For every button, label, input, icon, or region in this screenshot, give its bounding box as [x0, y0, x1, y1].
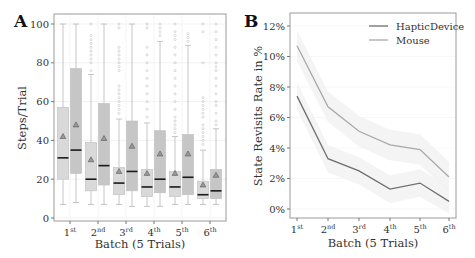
x-tick-label: 2nd [321, 223, 336, 235]
y-tick-label: 60 [36, 96, 49, 107]
line-chart-panel-b: B 0%2%4%6%8%10%12% 1st2nd3rd4th5th6th Ha… [244, 11, 464, 250]
svg-text:HapticDevice: HapticDevice [396, 21, 464, 32]
y-tick-label: 10% [263, 51, 285, 62]
y-tick-label: 100 [30, 19, 49, 30]
legend: HapticDeviceMouse [369, 21, 464, 46]
panel-label-a: A [13, 11, 28, 31]
box-hapticdevice-5th [170, 23, 181, 205]
boxplots [58, 23, 222, 206]
y-tick-label: 4% [269, 143, 285, 154]
y-tick-label: 20 [36, 174, 49, 185]
y-axis-label-a: Steps/Trial [15, 86, 29, 150]
y-tick-label: 40 [36, 135, 49, 146]
box-mouse-2nd [99, 24, 110, 204]
box-mouse-6th [211, 23, 222, 205]
x-tick-label: 1st [291, 223, 304, 235]
box-mouse-1st [71, 24, 82, 202]
legend-item-hapticdevice: HapticDevice [369, 21, 464, 32]
boxplot-panel-a: A 020406080100 1st2nd3rd4th5th6th Batch … [13, 11, 226, 251]
x-tick-label: 6th [442, 223, 455, 235]
y-tick-label: 8% [269, 82, 285, 93]
x-tick-label: 1st [64, 226, 77, 238]
legend-item-mouse: Mouse [369, 35, 430, 46]
box-hapticdevice-3rd [114, 23, 125, 205]
y-tick-label: 12% [263, 21, 285, 32]
y-tick-label: 0% [269, 204, 285, 215]
x-axis-a: 1st2nd3rd4th5th6th [64, 221, 217, 238]
box-mouse-4th [155, 23, 166, 206]
y-tick-label: 6% [269, 112, 285, 123]
figure: A 020406080100 1st2nd3rd4th5th6th Batch … [0, 0, 475, 258]
x-tick-label: 6th [203, 226, 216, 238]
y-axis-a: 020406080100 [30, 19, 54, 224]
panel-label-b: B [244, 11, 258, 31]
y-axis-b: 0%2%4%6%8%10%12% [263, 21, 290, 215]
box-mouse-5th [183, 33, 194, 205]
confidence-bands [297, 31, 449, 214]
x-tick-label: 4th [383, 223, 396, 235]
box-hapticdevice-2nd [86, 23, 97, 205]
box-hapticdevice-4th [142, 23, 153, 206]
y-tick-label: 0 [43, 213, 49, 224]
y-axis-label-b: State Revisits Rate in % [251, 46, 265, 186]
y-tick-label: 80 [36, 57, 49, 68]
y-tick-label: 2% [269, 173, 285, 184]
x-axis-label-a: Batch (5 Trials) [95, 237, 186, 251]
x-tick-label: 3rd [352, 223, 366, 235]
box-hapticdevice-6th [198, 23, 209, 205]
x-tick-label: 5th [413, 223, 426, 235]
svg-text:Mouse: Mouse [396, 35, 430, 46]
x-axis-label-b: Batch (5 Trials) [328, 236, 419, 250]
box-mouse-3rd [127, 24, 138, 206]
box-hapticdevice-1st [58, 24, 69, 204]
x-axis-b: 1st2nd3rd4th5th6th [291, 218, 456, 235]
